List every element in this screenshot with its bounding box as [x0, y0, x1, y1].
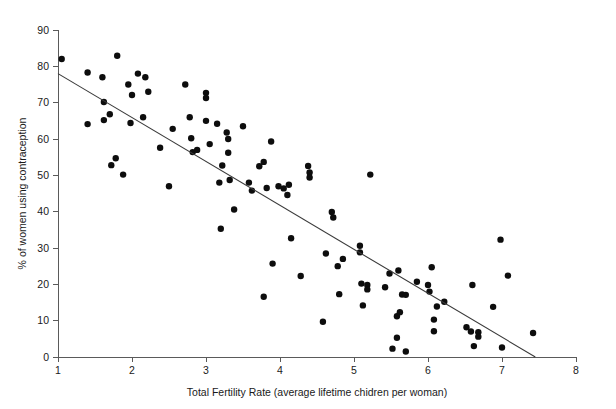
data-point — [269, 260, 275, 266]
data-point — [288, 235, 294, 241]
x-tick-label: 8 — [573, 364, 579, 376]
data-point — [469, 282, 475, 288]
data-point — [145, 89, 151, 95]
y-tick-label: 10 — [37, 314, 49, 326]
data-point — [207, 141, 213, 147]
data-point — [113, 155, 119, 161]
data-point — [490, 304, 496, 310]
data-point — [231, 206, 237, 212]
data-point — [214, 121, 220, 127]
data-point — [157, 145, 163, 151]
data-point — [394, 335, 400, 341]
data-point — [101, 117, 107, 123]
data-point — [320, 319, 326, 325]
data-point — [434, 303, 440, 309]
data-point — [225, 150, 231, 156]
data-point — [305, 163, 311, 169]
data-point — [403, 292, 409, 298]
data-point — [505, 272, 511, 278]
data-point — [108, 162, 114, 168]
data-point — [225, 136, 231, 142]
y-tick-label: 30 — [37, 242, 49, 254]
data-point — [188, 135, 194, 141]
data-point — [203, 118, 209, 124]
data-point — [219, 162, 225, 168]
data-point — [107, 111, 113, 117]
data-point — [499, 344, 505, 350]
data-point — [268, 138, 274, 144]
data-point — [357, 243, 363, 249]
data-point — [431, 316, 437, 322]
data-point — [429, 264, 435, 270]
data-point — [367, 171, 373, 177]
data-point — [170, 126, 176, 132]
data-point — [414, 279, 420, 285]
x-axis-title: Total Fertility Rate (average lifetime c… — [187, 386, 447, 398]
data-point — [468, 328, 474, 334]
data-point — [382, 284, 388, 290]
x-tick-label: 4 — [277, 364, 283, 376]
x-tick-label: 7 — [499, 364, 505, 376]
data-point — [129, 92, 135, 98]
y-tick-label: 60 — [37, 133, 49, 145]
data-point — [431, 328, 437, 334]
data-point — [194, 147, 200, 153]
data-point — [84, 121, 90, 127]
data-point — [389, 345, 395, 351]
data-point — [397, 309, 403, 315]
y-axis-title: % of women using contraception — [16, 117, 28, 269]
data-point — [140, 114, 146, 120]
y-tick-label: 50 — [37, 169, 49, 181]
y-tick-label: 40 — [37, 205, 49, 217]
y-axis-ticks: 0102030405060708090 — [37, 24, 58, 363]
y-tick-label: 80 — [37, 60, 49, 72]
y-tick-label: 0 — [43, 351, 49, 363]
data-point — [218, 226, 224, 232]
x-tick-label: 6 — [425, 364, 431, 376]
data-points-group — [59, 53, 537, 355]
data-point — [298, 273, 304, 279]
y-tick-label: 90 — [37, 24, 49, 36]
data-point — [340, 256, 346, 262]
data-point — [224, 129, 230, 135]
data-point — [59, 56, 65, 62]
data-point — [142, 74, 148, 80]
data-point — [360, 302, 366, 308]
data-point — [364, 286, 370, 292]
data-point — [84, 69, 90, 75]
data-point — [471, 343, 477, 349]
data-point — [166, 183, 172, 189]
data-point — [284, 192, 290, 198]
scatter-plot-figure: 0102030405060708090 12345678 Total Ferti… — [0, 0, 616, 409]
data-point — [263, 185, 269, 191]
data-point — [99, 74, 105, 80]
x-axis-ticks: 12345678 — [55, 357, 579, 376]
data-point — [306, 174, 312, 180]
data-point — [336, 291, 342, 297]
data-point — [497, 236, 503, 242]
data-point — [286, 182, 292, 188]
data-point — [135, 70, 141, 76]
data-point — [127, 120, 133, 126]
data-point — [261, 159, 267, 165]
x-tick-label: 2 — [129, 364, 135, 376]
data-point — [335, 263, 341, 269]
x-tick-label: 1 — [55, 364, 61, 376]
x-tick-label: 3 — [203, 364, 209, 376]
data-point — [475, 333, 481, 339]
data-point — [246, 179, 252, 185]
data-point — [182, 81, 188, 87]
data-point — [281, 185, 287, 191]
chart-canvas: 0102030405060708090 12345678 Total Ferti… — [0, 0, 616, 409]
data-point — [323, 250, 329, 256]
y-tick-label: 20 — [37, 278, 49, 290]
data-point — [226, 177, 232, 183]
data-point — [216, 179, 222, 185]
data-point — [395, 267, 401, 273]
data-point — [203, 95, 209, 101]
data-point — [114, 53, 120, 59]
data-point — [240, 123, 246, 129]
data-point — [125, 81, 131, 87]
data-point — [330, 214, 336, 220]
data-point — [261, 293, 267, 299]
